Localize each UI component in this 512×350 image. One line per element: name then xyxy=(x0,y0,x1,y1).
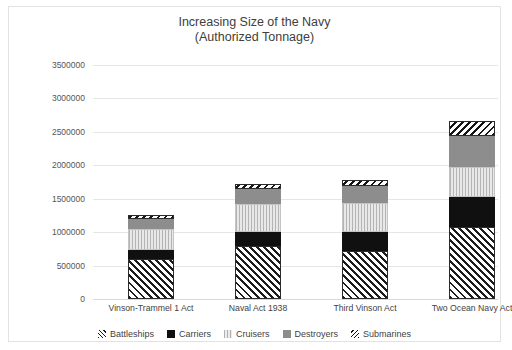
chart-title-main: Increasing Size of the Navy xyxy=(9,15,500,30)
bar-column xyxy=(128,65,174,299)
y-axis-tick-label: 500000 xyxy=(57,261,85,271)
bar-segment-cruisers xyxy=(235,204,281,231)
y-axis-tick-label: 3500000 xyxy=(52,60,85,70)
bar-segment-cruisers xyxy=(449,167,495,196)
x-axis-tick-label: Naval Act 1938 xyxy=(229,303,287,313)
bar-segment-submarines xyxy=(128,215,174,219)
carriers-black-swatch-icon xyxy=(167,330,175,338)
legend-item-battleships[interactable]: Battleships xyxy=(98,329,154,339)
bar-segment-cruisers xyxy=(342,203,388,232)
legend-item-carriers[interactable]: Carriers xyxy=(167,329,211,339)
bar-segment-battleships xyxy=(235,246,281,299)
x-axis-tick-label: Two Ocean Navy Act xyxy=(432,303,512,313)
battleships-pattern-swatch-icon xyxy=(98,330,106,338)
chart-title-subtitle: (Authorized Tonnage) xyxy=(9,30,500,45)
legend-label: Cruisers xyxy=(236,329,270,339)
legend-label: Carriers xyxy=(179,329,211,339)
y-axis-tick-label: 1500000 xyxy=(52,194,85,204)
bar-segment-carriers xyxy=(449,197,495,227)
x-axis-tick-label: Vinson-Trammel 1 Act xyxy=(109,303,194,313)
bar-segment-destroyers xyxy=(342,186,388,203)
bar-segment-destroyers xyxy=(128,219,174,229)
bar-segment-battleships xyxy=(128,259,174,299)
submarines-pattern-swatch-icon xyxy=(351,330,359,338)
x-axis-line xyxy=(93,299,498,300)
y-axis-tick-label: 1000000 xyxy=(52,227,85,237)
chart-title: Increasing Size of the Navy (Authorized … xyxy=(9,15,500,45)
y-axis-tick-label: 0 xyxy=(80,294,85,304)
plot-area xyxy=(93,65,498,299)
legend-item-submarines[interactable]: Submarines xyxy=(351,329,411,339)
legend-label: Submarines xyxy=(363,329,411,339)
y-axis-tick-label: 2500000 xyxy=(52,127,85,137)
x-axis-tick-labels: Vinson-Trammel 1 ActNaval Act 1938Third … xyxy=(93,303,498,321)
bar-column xyxy=(235,65,281,299)
y-axis-tick-label: 2000000 xyxy=(52,160,85,170)
bar-column xyxy=(449,65,495,299)
bar-segment-carriers xyxy=(235,232,281,246)
bar-column xyxy=(342,65,388,299)
cruisers-light-swatch-icon xyxy=(224,330,232,338)
legend-item-destroyers[interactable]: Destroyers xyxy=(283,329,339,339)
bar-segment-destroyers xyxy=(235,189,281,205)
legend-label: Destroyers xyxy=(295,329,339,339)
chart-legend: BattleshipsCarriersCruisersDestroyersSub… xyxy=(9,329,500,339)
y-axis-tick-label: 3000000 xyxy=(52,93,85,103)
bar-segment-submarines xyxy=(235,184,281,189)
bar-segment-submarines xyxy=(342,180,388,186)
bar-segment-cruisers xyxy=(128,229,174,250)
chart-container: Increasing Size of the Navy (Authorized … xyxy=(8,6,501,342)
y-axis-tick-labels: 0500000100000015000002000000250000030000… xyxy=(9,65,89,299)
bar-segment-battleships xyxy=(342,251,388,299)
bar-segment-battleships xyxy=(449,227,495,299)
bar-segment-carriers xyxy=(342,232,388,251)
bar-segment-destroyers xyxy=(449,136,495,167)
legend-label: Battleships xyxy=(110,329,154,339)
legend-item-cruisers[interactable]: Cruisers xyxy=(224,329,270,339)
x-axis-tick-label: Third Vinson Act xyxy=(333,303,396,313)
destroyers-gray-swatch-icon xyxy=(283,330,291,338)
bar-segment-submarines xyxy=(449,121,495,136)
bar-segment-carriers xyxy=(128,250,174,259)
